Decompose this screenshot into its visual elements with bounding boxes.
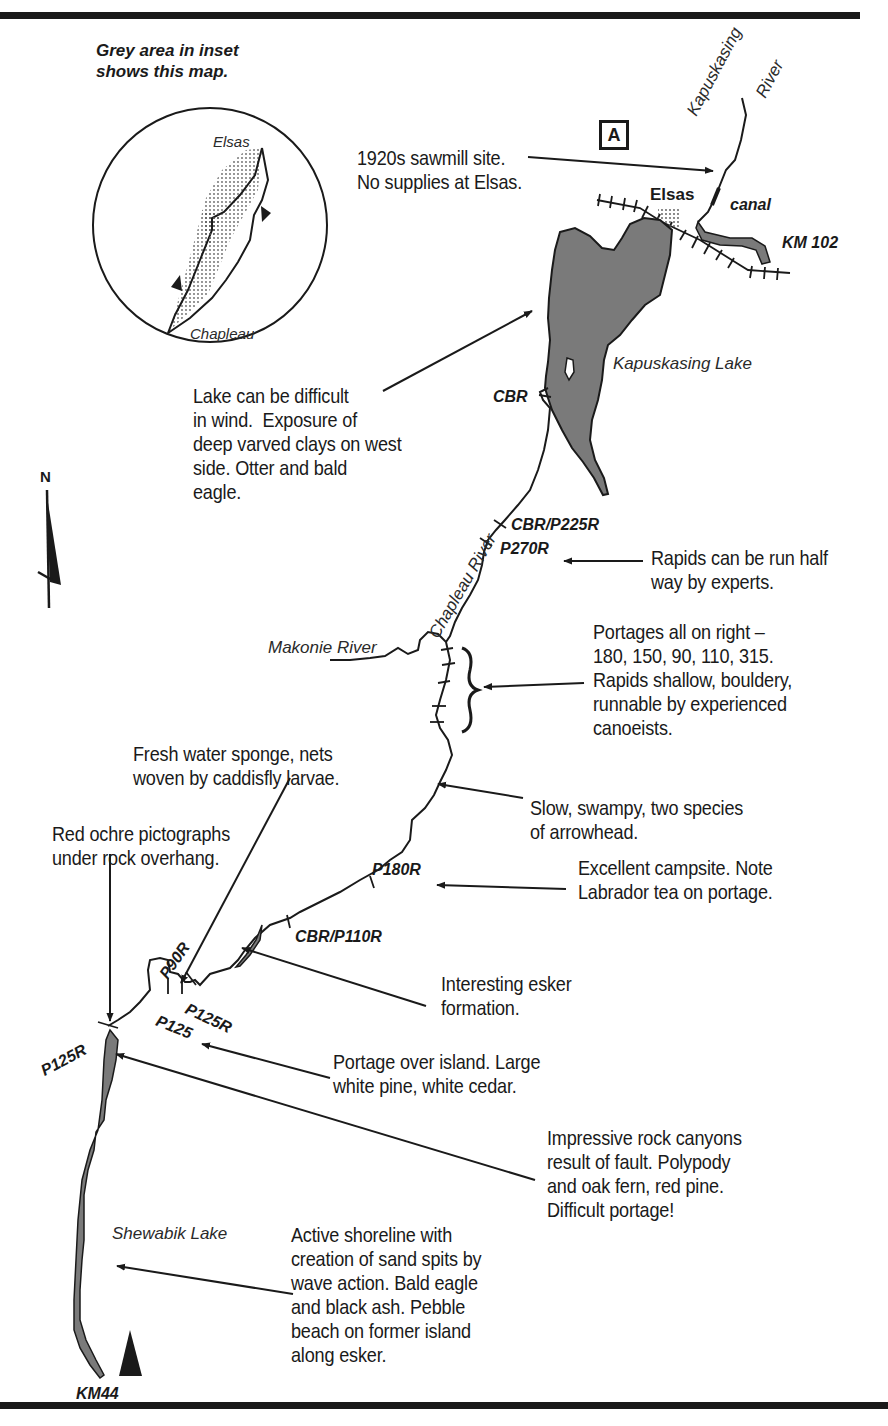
inset-caption: Grey area in inset shows this map.	[96, 40, 239, 82]
label-km-44: KM44	[76, 1385, 119, 1403]
note-campsite: Excellent campsite. Note Labrador tea on…	[578, 856, 773, 904]
portage-cbr-p225r: CBR/P225R	[511, 516, 599, 534]
portage-cbr: CBR	[493, 388, 528, 406]
inset-label-elsas: Elsas	[213, 133, 250, 150]
label-kapuskasing-lake: Kapuskasing Lake	[613, 354, 752, 374]
label-shewabik-lake: Shewabik Lake	[112, 1224, 227, 1244]
label-km-102: KM 102	[782, 234, 838, 252]
note-pictographs: Red ochre pictographs under rock overhan…	[52, 822, 230, 870]
portage-brace	[462, 648, 478, 732]
place-elsas: Elsas	[650, 185, 694, 205]
inset-map	[93, 108, 327, 342]
note-sponge: Fresh water sponge, nets woven by caddis…	[133, 742, 339, 790]
portage-cbr-p110r: CBR/P110R	[295, 928, 382, 946]
shewabik-lake-shape	[74, 1030, 118, 1378]
label-canal: canal	[730, 196, 771, 214]
portage-p270r: P270R	[500, 540, 549, 558]
note-canyons: Impressive rock canyons result of fault.…	[547, 1126, 742, 1222]
inset-triangle-east	[261, 206, 271, 222]
south-triangle-icon	[119, 1330, 142, 1376]
map-section-badge: A	[599, 120, 629, 150]
note-sawmill: 1920s sawmill site. No supplies at Elsas…	[357, 146, 522, 194]
note-rapids-half: Rapids can be run half way by experts.	[651, 546, 828, 594]
north-arrow-icon	[38, 490, 61, 608]
note-lake-wind: Lake can be difficult in wind. Exposure …	[193, 384, 402, 504]
note-portages-right: Portages all on right – 180, 150, 90, 11…	[593, 620, 792, 740]
note-esker: Interesting esker formation.	[441, 972, 572, 1020]
inset-label-chapleau: Chapleau	[190, 325, 254, 342]
inset-triangle-west	[171, 275, 182, 291]
north-label: N	[40, 468, 51, 485]
note-island: Portage over island. Large white pine, w…	[333, 1050, 540, 1098]
note-swampy: Slow, swampy, two species of arrowhead.	[530, 796, 743, 844]
note-shoreline: Active shoreline with creation of sand s…	[291, 1223, 481, 1367]
portage-p180r: P180R	[372, 861, 421, 879]
label-makonie-river: Makonie River	[268, 638, 377, 658]
